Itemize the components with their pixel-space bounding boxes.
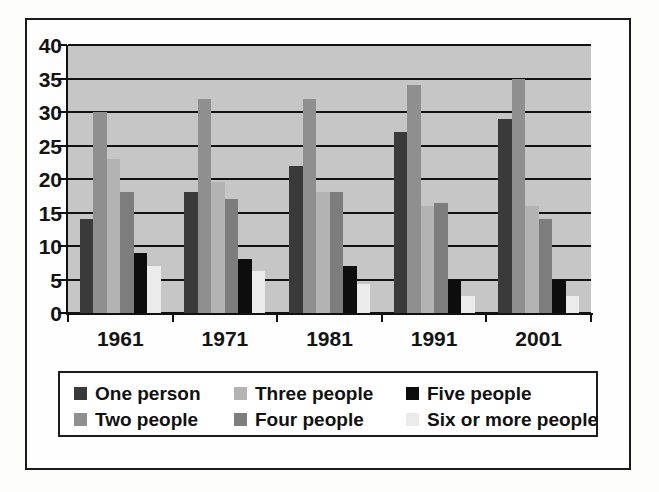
- y-axis-tick-mark: [58, 78, 67, 80]
- x-axis-tick-mark: [485, 313, 487, 322]
- chart-legend: One personTwo peopleThree peopleFour peo…: [58, 371, 598, 437]
- legend-label: Six or more people: [427, 410, 598, 429]
- legend-item[interactable]: Two people: [74, 410, 234, 429]
- legend-label: Three people: [255, 384, 373, 403]
- bar: [357, 284, 371, 313]
- bar: [448, 280, 462, 314]
- legend-label: Two people: [95, 410, 198, 429]
- bar: [330, 192, 344, 313]
- bar: [211, 182, 225, 313]
- y-axis-tick-label: 30: [20, 102, 62, 123]
- legend-item[interactable]: Three people: [234, 384, 406, 403]
- bar: [289, 166, 303, 313]
- y-axis-tick-mark: [58, 312, 67, 314]
- bar: [552, 280, 566, 314]
- x-axis-label-1971: 1971: [173, 328, 278, 349]
- y-axis-tick-label: 35: [20, 69, 62, 90]
- bar: [498, 119, 512, 313]
- gridline: [68, 44, 591, 46]
- plot-area-wrapper: [68, 45, 591, 313]
- bar: [525, 206, 539, 313]
- x-axis-tick-mark: [590, 313, 592, 322]
- bar: [461, 296, 475, 313]
- y-axis-tick-label: 15: [20, 203, 62, 224]
- y-axis-tick-mark: [58, 212, 67, 214]
- bar: [80, 219, 94, 313]
- legend-swatch-icon: [406, 387, 419, 400]
- legend-item[interactable]: Six or more people: [406, 410, 586, 429]
- legend-swatch-icon: [234, 413, 247, 426]
- legend-swatch-icon: [74, 387, 87, 400]
- legend-label: One person: [95, 384, 201, 403]
- bar: [107, 159, 121, 313]
- bar: [407, 85, 421, 313]
- bar: [566, 296, 580, 313]
- legend-label: Five people: [427, 384, 532, 403]
- y-axis-tick-mark: [58, 279, 67, 281]
- legend-swatch-icon: [406, 413, 419, 426]
- y-axis-tick-label: 40: [20, 35, 62, 56]
- bar: [421, 206, 435, 313]
- x-axis-line: [66, 313, 593, 315]
- bar: [225, 199, 239, 313]
- bar: [93, 112, 107, 313]
- legend-swatch-icon: [234, 387, 247, 400]
- bar: [512, 79, 526, 314]
- bar: [134, 253, 148, 313]
- legend-item[interactable]: One person: [74, 384, 234, 403]
- y-axis-tick-label: 25: [20, 136, 62, 157]
- bar: [394, 132, 408, 313]
- plot-area: [68, 45, 591, 313]
- x-axis-tick-mark: [276, 313, 278, 322]
- y-axis-tick-label: 5: [20, 270, 62, 291]
- bar: [539, 219, 553, 313]
- bar: [120, 192, 134, 313]
- legend-item[interactable]: Four people: [234, 410, 406, 429]
- legend-label: Four people: [255, 410, 364, 429]
- x-axis-label-1981: 1981: [277, 328, 382, 349]
- x-axis-tick-mark: [381, 313, 383, 322]
- x-axis-label-1991: 1991: [382, 328, 487, 349]
- y-axis-tick-label: 20: [20, 169, 62, 190]
- y-axis-tick-mark: [58, 44, 67, 46]
- y-axis-tick-label: 0: [20, 303, 62, 324]
- x-axis-label-2001: 2001: [486, 328, 591, 349]
- x-axis-tick-mark: [67, 313, 69, 322]
- y-axis-tick-labels: 0510152025303540: [16, 45, 62, 313]
- legend-items: One personTwo peopleThree peopleFour peo…: [74, 380, 586, 432]
- y-axis-tick-mark: [58, 178, 67, 180]
- bar: [316, 192, 330, 313]
- y-axis-tick-mark: [58, 145, 67, 147]
- bar: [343, 266, 357, 313]
- y-axis-tick-label: 10: [20, 236, 62, 257]
- chart-figure: 0510152025303540 One personTwo peopleThr…: [0, 0, 659, 492]
- bar: [434, 203, 448, 313]
- x-axis-tick-mark: [172, 313, 174, 322]
- legend-item[interactable]: Five people: [406, 384, 586, 403]
- y-axis-line: [66, 45, 68, 315]
- y-axis-tick-mark: [58, 111, 67, 113]
- legend-swatch-icon: [74, 413, 87, 426]
- bar: [252, 271, 266, 313]
- y-axis-tick-mark: [58, 245, 67, 247]
- bar: [303, 99, 317, 313]
- bar: [147, 266, 161, 313]
- x-axis-label-1961: 1961: [68, 328, 173, 349]
- bar: [198, 99, 212, 313]
- bar: [184, 192, 198, 313]
- bar: [238, 259, 252, 313]
